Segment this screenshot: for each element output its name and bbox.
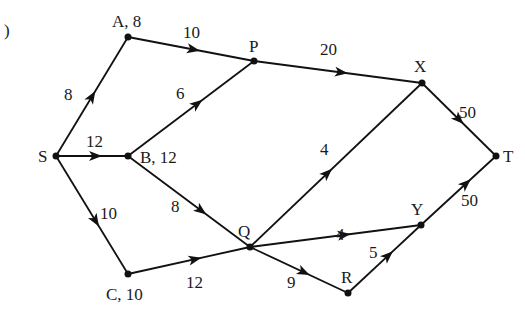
node-x <box>419 80 426 87</box>
node-q <box>247 244 254 251</box>
node-t <box>493 153 500 160</box>
edge-weight-s-a: 8 <box>64 85 73 104</box>
node-label-b: B, 12 <box>140 148 177 167</box>
edge-b-q <box>128 156 250 247</box>
edge-y-t <box>421 156 496 225</box>
edge-weight-b-p: 6 <box>176 84 185 103</box>
node-s <box>53 153 60 160</box>
edge-weight-s-b: 12 <box>86 132 103 151</box>
edge-weight-b-q: 8 <box>171 197 180 216</box>
node-label-a: A, 8 <box>112 12 141 31</box>
node-a <box>125 34 132 41</box>
corner-mark: ) <box>4 21 10 40</box>
edge-weight-p-x: 20 <box>320 40 337 59</box>
network-diagram: ) 812101068122044955050 SA, 8B, 12C, 10P… <box>0 0 525 312</box>
edge-p-x <box>254 61 422 83</box>
arrowhead-icon <box>88 213 99 227</box>
node-label-c: C, 10 <box>106 285 143 304</box>
node-label-r: R <box>341 268 353 287</box>
edge-weight-y-t: 50 <box>461 191 478 210</box>
node-r <box>345 290 352 297</box>
edge-weight-r-y: 5 <box>369 243 378 262</box>
arrowhead-icon <box>189 100 202 112</box>
edge-weight-x-t: 50 <box>459 103 476 122</box>
node-label-t: T <box>503 147 514 166</box>
edge-weight-q-y: 4 <box>336 225 345 244</box>
node-label-q: Q <box>238 222 250 241</box>
edge-r-y <box>348 225 421 293</box>
edge-weight-a-p: 10 <box>183 23 200 42</box>
node-y <box>418 222 425 229</box>
edge-weight-c-q: 12 <box>186 273 203 292</box>
edge-weight-q-r: 9 <box>287 273 296 292</box>
arrowhead-icon <box>84 91 95 105</box>
edge-s-c <box>56 156 128 274</box>
node-label-y: Y <box>411 200 423 219</box>
edge-c-q <box>128 247 250 274</box>
edge-weight-q-x: 4 <box>320 140 329 159</box>
edge-q-x <box>250 83 422 247</box>
node-label-p: P <box>249 37 258 56</box>
node-b <box>125 153 132 160</box>
edge-b-p <box>128 61 254 156</box>
node-p <box>251 58 258 65</box>
edge-weight-s-c: 10 <box>100 204 117 223</box>
node-c <box>125 271 132 278</box>
edge-q-r <box>250 247 348 293</box>
node-label-s: S <box>38 147 47 166</box>
node-label-x: X <box>414 57 426 76</box>
arrowhead-icon <box>193 203 206 215</box>
